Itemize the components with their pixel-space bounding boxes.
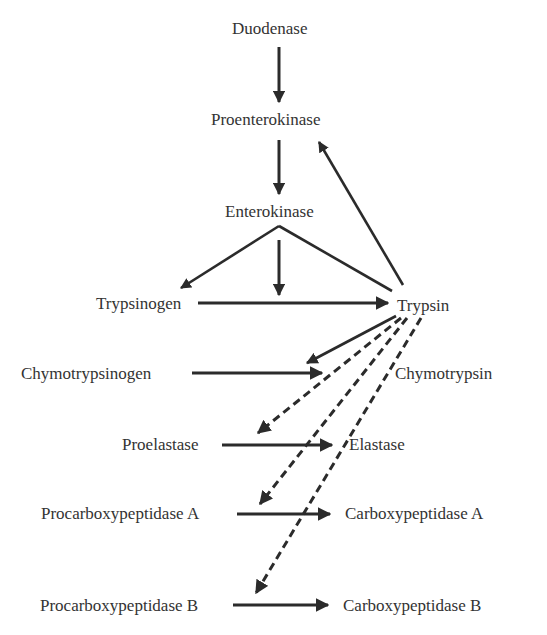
node-trypsinogen: Trypsinogen — [96, 295, 181, 312]
node-procarboxypeptidase-a: Procarboxypeptidase A — [41, 505, 199, 522]
arrow-trypsin-to-proenterokinase — [319, 142, 403, 285]
node-duodenase: Duodenase — [232, 20, 308, 37]
node-elastase: Elastase — [349, 436, 405, 453]
node-chymotrypsin: Chymotrypsin — [395, 365, 492, 382]
activation-cascade-diagram: Duodenase Proenterokinase Enterokinase T… — [0, 0, 547, 635]
edges-layer — [0, 0, 547, 635]
dashed-arrow-trypsin-to-procarboxypeptidase-a — [260, 318, 407, 504]
node-procarboxypeptidase-b: Procarboxypeptidase B — [40, 597, 198, 614]
arrow-trypsin-to-chymotrypsinogen-activation — [307, 316, 396, 363]
arrow-enterokinase-to-trypsinogen — [181, 226, 279, 288]
node-carboxypeptidase-b: Carboxypeptidase B — [343, 597, 481, 614]
node-enterokinase: Enterokinase — [225, 203, 314, 220]
node-trypsin: Trypsin — [397, 297, 449, 314]
node-proelastase: Proelastase — [122, 436, 198, 453]
node-proenterokinase: Proenterokinase — [211, 111, 321, 128]
node-chymotrypsinogen: Chymotrypsinogen — [21, 365, 151, 382]
dashed-arrow-trypsin-to-procarboxypeptidase-b — [256, 318, 421, 593]
node-carboxypeptidase-a: Carboxypeptidase A — [345, 505, 483, 522]
